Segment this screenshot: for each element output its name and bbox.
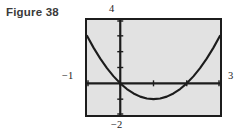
y-min-label: −2 (111, 119, 122, 130)
calculator-screen (85, 18, 222, 117)
figure-caption: Figure 38 (6, 6, 59, 18)
x-max-label: 3 (228, 70, 233, 81)
figure-container: Figure 38 4 −1 3 −2 (0, 0, 243, 140)
graph-plot (87, 20, 220, 115)
x-min-label: −1 (62, 70, 73, 81)
y-max-label: 4 (109, 3, 114, 14)
